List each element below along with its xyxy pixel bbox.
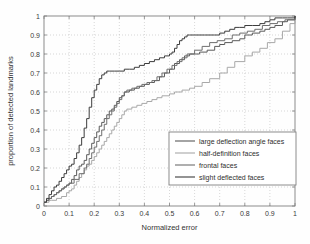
x-tick-label: 0.7: [215, 210, 225, 217]
y-tick-label: 0.6: [30, 89, 40, 96]
y-tick-label: 0.2: [30, 165, 40, 172]
y-tick-label: 1: [36, 13, 40, 20]
x-tick-label: 0: [42, 210, 46, 217]
ced-curve-chart: 00.10.20.30.40.50.60.70.80.91 00.10.20.3…: [0, 0, 310, 244]
x-tick-label: 0.4: [140, 210, 150, 217]
legend-label-1: half-definition faces: [199, 150, 260, 157]
chart-figure: 00.10.20.30.40.50.60.70.80.91 00.10.20.3…: [0, 0, 310, 244]
y-tick-label: 0.3: [30, 146, 40, 153]
legend-label-3: slight deflected faces: [199, 174, 265, 182]
y-tick-label: 0.5: [30, 108, 40, 115]
x-tick-label: 0.2: [89, 210, 99, 217]
y-tick-label: 0.7: [30, 70, 40, 77]
y-tick-label: 0.8: [30, 51, 40, 58]
x-axis-title: Normalized error: [142, 223, 198, 232]
x-tick-label: 0.6: [190, 210, 200, 217]
y-tick-label: 0: [36, 203, 40, 210]
x-tick-label: 0.9: [265, 210, 275, 217]
y-tick-label: 0.4: [30, 127, 40, 134]
figure-background: [0, 0, 310, 244]
x-tick-label: 0.1: [64, 210, 74, 217]
x-tick-label: 0.8: [240, 210, 250, 217]
y-tick-label: 0.9: [30, 32, 40, 39]
legend-label-0: large deflection angle faces: [199, 138, 285, 146]
x-tick-label: 1: [293, 210, 297, 217]
legend-label-2: frontal faces: [199, 162, 238, 169]
legend: large deflection angle faceshalf-definit…: [169, 132, 296, 185]
x-tick-label: 0.3: [114, 210, 124, 217]
x-tick-label: 0.5: [165, 210, 175, 217]
y-tick-label: 0.1: [30, 184, 40, 191]
y-axis-title: proportion of detected landmarks: [6, 56, 15, 166]
